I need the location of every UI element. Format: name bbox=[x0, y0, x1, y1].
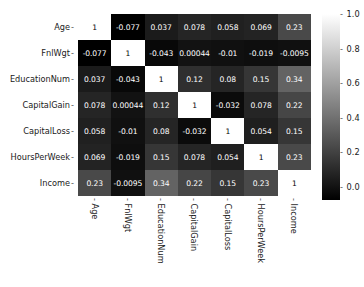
x-tick-label: - HoursPerWeek bbox=[257, 198, 265, 263]
heatmap-cell-value: -0.0095 bbox=[114, 179, 143, 188]
heatmap-cell-value: 0.069 bbox=[84, 153, 105, 162]
heatmap-cell: -0.01 bbox=[211, 40, 244, 66]
heatmap-cell: -0.01 bbox=[111, 118, 144, 144]
y-tick-mark: - bbox=[70, 14, 74, 40]
heatmap-cell: 0.058 bbox=[78, 118, 111, 144]
x-tick-label-text: Age bbox=[90, 204, 100, 220]
x-axis-tick-labels: - Age- FnlWgt- EducationNum- CapitalGain… bbox=[78, 196, 311, 287]
colorbar-gradient bbox=[322, 14, 340, 200]
colorbar-tick-labels: - 1.0- 0.8- 0.6- 0.4- 0.2- 0.0 bbox=[340, 14, 364, 200]
heatmap-cell-value: 0.054 bbox=[217, 153, 238, 162]
colorbar-tick-text: 0.8 bbox=[344, 44, 360, 54]
heatmap-cell: 0.078 bbox=[244, 92, 277, 118]
heatmap-cell-value: 0.34 bbox=[153, 179, 170, 188]
x-tick-label-text: HoursPerWeek bbox=[256, 204, 266, 263]
heatmap-cell-value: 0.15 bbox=[253, 75, 270, 84]
x-tick-label: - CapitalLoss bbox=[224, 198, 232, 250]
heatmap-cell: 0.069 bbox=[78, 144, 111, 170]
heatmap-cell: 1 bbox=[178, 92, 211, 118]
heatmap-cell: -0.032 bbox=[178, 118, 211, 144]
heatmap-cell: 0.23 bbox=[278, 14, 311, 40]
x-tick-label: - EducationNum bbox=[157, 198, 165, 264]
heatmap-cell-value: 0.058 bbox=[217, 23, 238, 32]
heatmap-cell: -0.043 bbox=[145, 40, 178, 66]
heatmap-cell-value: 0.08 bbox=[220, 75, 237, 84]
heatmap-cell: 1 bbox=[78, 14, 111, 40]
x-tick-slot: - FnlWgt bbox=[111, 196, 144, 287]
heatmap-cell-value: -0.0095 bbox=[280, 49, 309, 58]
heatmap-cell-value: 0.069 bbox=[250, 23, 271, 32]
y-tick-label-text: FnlWgt bbox=[41, 48, 70, 58]
x-tick-slot: - Age bbox=[78, 196, 111, 287]
y-tick-mark: - bbox=[70, 40, 74, 66]
x-tick-label-text: FnlWgt bbox=[123, 204, 133, 233]
heatmap-grid: 1-0.0770.0370.0780.0580.0690.23-0.0771-0… bbox=[78, 14, 311, 196]
heatmap-cell: 0.078 bbox=[78, 92, 111, 118]
colorbar-tick: - 0.0 bbox=[340, 182, 360, 192]
colorbar-tick: - 0.6 bbox=[340, 78, 360, 88]
y-tick-mark: - bbox=[70, 92, 74, 118]
heatmap-cell: -0.019 bbox=[111, 144, 144, 170]
colorbar-tick: - 0.8 bbox=[340, 44, 360, 54]
heatmap-cell-value: 0.12 bbox=[153, 101, 170, 110]
y-tick-label: CapitalGain - bbox=[0, 92, 74, 118]
heatmap-cell: 0.15 bbox=[244, 66, 277, 92]
heatmap-cell-value: 0.00044 bbox=[113, 101, 144, 110]
heatmap-cell: 1 bbox=[111, 40, 144, 66]
colorbar-tick: - 0.2 bbox=[340, 147, 360, 157]
heatmap-cell: 0.00044 bbox=[111, 92, 144, 118]
heatmap-cell-value: 1 bbox=[225, 127, 230, 136]
heatmap-cell: 0.00044 bbox=[178, 40, 211, 66]
y-tick-label-text: HoursPerWeek bbox=[11, 152, 70, 162]
heatmap-cell: 0.069 bbox=[244, 14, 277, 40]
heatmap-cell: 0.23 bbox=[78, 170, 111, 196]
heatmap-cell-value: -0.043 bbox=[116, 75, 140, 84]
heatmap-cell-value: 0.08 bbox=[153, 127, 170, 136]
heatmap-cell: 0.15 bbox=[211, 170, 244, 196]
y-tick-label: FnlWgt - bbox=[0, 40, 74, 66]
x-tick-label: - CapitalGain bbox=[190, 198, 198, 251]
colorbar-tick: - 0.4 bbox=[340, 113, 360, 123]
heatmap-cell: -0.032 bbox=[211, 92, 244, 118]
heatmap-cell-value: -0.043 bbox=[149, 49, 173, 58]
y-tick-label-text: CapitalGain bbox=[22, 100, 70, 110]
colorbar-tick-text: 1.0 bbox=[344, 9, 360, 19]
heatmap-cell-value: 0.23 bbox=[86, 179, 103, 188]
y-tick-label: Age - bbox=[0, 14, 74, 40]
heatmap-cell-value: 0.22 bbox=[286, 101, 303, 110]
heatmap-cell-value: 0.15 bbox=[153, 153, 170, 162]
heatmap-cell: -0.0095 bbox=[278, 40, 311, 66]
x-tick-label: - FnlWgt bbox=[124, 198, 132, 232]
x-tick-label-text: EducationNum bbox=[156, 204, 166, 264]
colorbar-tick-text: 0.0 bbox=[344, 182, 360, 192]
heatmap-cell: 1 bbox=[244, 144, 277, 170]
heatmap-cell-value: 0.054 bbox=[250, 127, 271, 136]
heatmap-cell-value: -0.019 bbox=[249, 49, 273, 58]
heatmap-cell-value: 0.078 bbox=[184, 23, 205, 32]
y-tick-label: Income - bbox=[0, 170, 74, 196]
heatmap-cell-value: -0.077 bbox=[116, 23, 140, 32]
heatmap-cell: 0.058 bbox=[211, 14, 244, 40]
x-tick-label-text: CapitalLoss bbox=[223, 204, 233, 251]
heatmap-cell-value: 0.12 bbox=[186, 75, 203, 84]
y-tick-label: CapitalLoss - bbox=[0, 118, 74, 144]
y-tick-mark: - bbox=[70, 144, 74, 170]
heatmap-cell: 0.12 bbox=[145, 92, 178, 118]
colorbar-tick-text: 0.2 bbox=[344, 147, 360, 157]
heatmap-cell: 0.12 bbox=[178, 66, 211, 92]
x-tick-slot: - HoursPerWeek bbox=[244, 196, 277, 287]
heatmap-cell-value: 0.078 bbox=[250, 101, 271, 110]
x-tick-slot: - Income bbox=[278, 196, 311, 287]
colorbar-tick-text: 0.4 bbox=[344, 113, 360, 123]
y-tick-label-text: EducationNum bbox=[10, 74, 70, 84]
heatmap-cell: 0.34 bbox=[278, 66, 311, 92]
heatmap-cell: 0.037 bbox=[145, 14, 178, 40]
heatmap-cell-value: 0.037 bbox=[84, 75, 105, 84]
heatmap-cell: 0.23 bbox=[244, 170, 277, 196]
heatmap-cell: -0.077 bbox=[78, 40, 111, 66]
heatmap-cell-value: 1 bbox=[292, 179, 297, 188]
heatmap-cell: 0.34 bbox=[145, 170, 178, 196]
colorbar-tick-text: 0.6 bbox=[344, 78, 360, 88]
y-tick-mark: - bbox=[70, 66, 74, 92]
heatmap-cell-value: -0.077 bbox=[83, 49, 107, 58]
